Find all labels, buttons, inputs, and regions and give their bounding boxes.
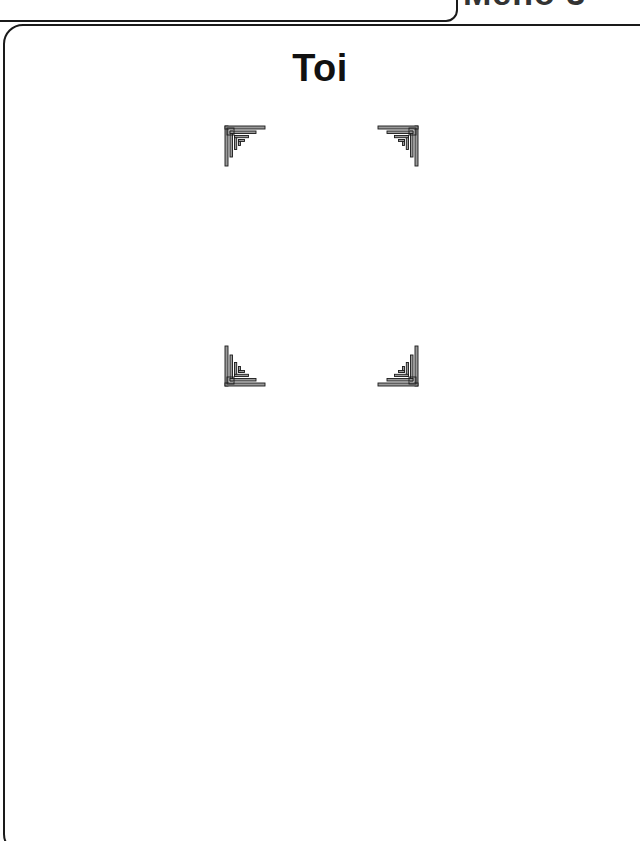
- corner-ornament-top-right-icon: [377, 125, 419, 167]
- header-partial-label: Meno 3: [463, 0, 586, 13]
- page-title: Toi: [0, 47, 640, 90]
- corner-ornament-bottom-left-icon: [224, 345, 266, 387]
- header-box: [0, 0, 458, 22]
- corner-ornament-top-left-icon: [224, 125, 266, 167]
- page-card: [3, 24, 640, 841]
- corner-ornament-bottom-right-icon: [377, 345, 419, 387]
